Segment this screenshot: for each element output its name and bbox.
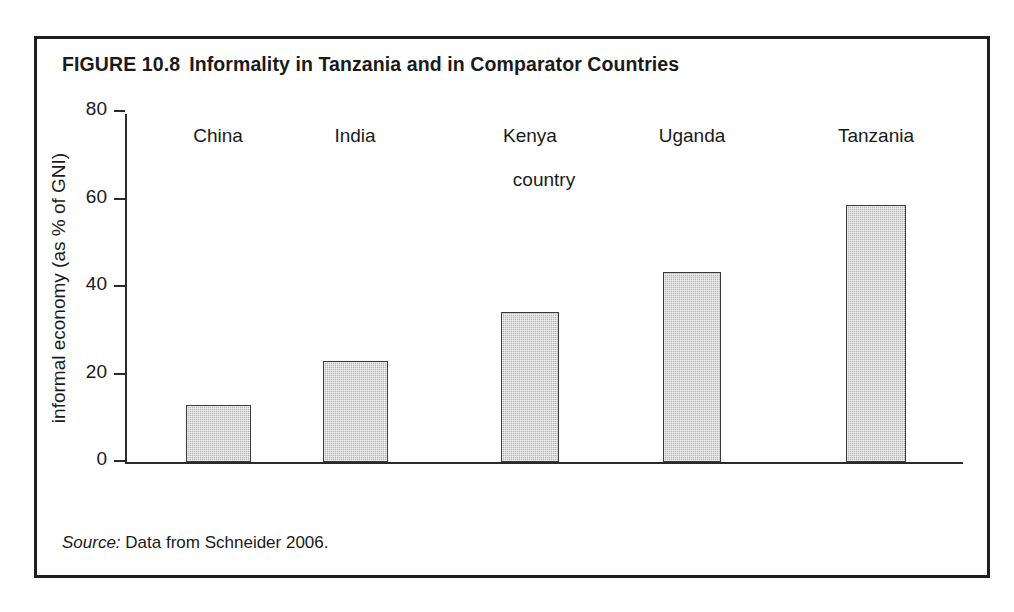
y-tick-80: 80 <box>114 110 125 112</box>
bar-india <box>323 361 388 463</box>
y-tick-label-20: 20 <box>86 361 107 383</box>
x-axis-title: country <box>513 169 575 191</box>
figure-frame: FIGURE 10.8Informality in Tanzania and i… <box>34 36 990 578</box>
y-axis-line <box>125 114 127 464</box>
x-axis-line <box>125 462 963 464</box>
y-tick-label-60: 60 <box>86 186 107 208</box>
page-title: FIGURE 10.8Informality in Tanzania and i… <box>62 53 679 76</box>
y-tick-40: 40 <box>114 285 125 287</box>
bar-tanzania <box>846 205 906 462</box>
y-tick-label-40: 40 <box>86 273 107 295</box>
bar-kenya <box>501 312 559 462</box>
x-tick-label-tanzania: Tanzania <box>838 125 914 147</box>
figure-title-text: Informality in Tanzania and in Comparato… <box>189 53 679 75</box>
y-tick-60: 60 <box>114 198 125 200</box>
source-text: Data from Schneider 2006. <box>125 533 328 552</box>
source-note: Source: Data from Schneider 2006. <box>62 533 329 553</box>
bar-china <box>186 405 251 462</box>
y-tick-20: 20 <box>114 373 125 375</box>
x-tick-label-uganda: Uganda <box>659 125 726 147</box>
bar-uganda <box>663 272 721 462</box>
x-tick-label-kenya: Kenya <box>503 125 557 147</box>
chart-plot-area: informal economy (as % of GNI) 0 20 40 6… <box>125 111 963 464</box>
x-tick-label-china: China <box>193 125 243 147</box>
figure-number: FIGURE 10.8 <box>62 53 180 75</box>
y-tick-0: 0 <box>114 460 125 462</box>
y-tick-label-80: 80 <box>86 98 107 120</box>
y-tick-label-0: 0 <box>96 448 107 470</box>
y-axis-title: informal economy (as % of GNI) <box>48 152 70 422</box>
x-tick-label-india: India <box>334 125 375 147</box>
source-label: Source: <box>62 533 121 552</box>
